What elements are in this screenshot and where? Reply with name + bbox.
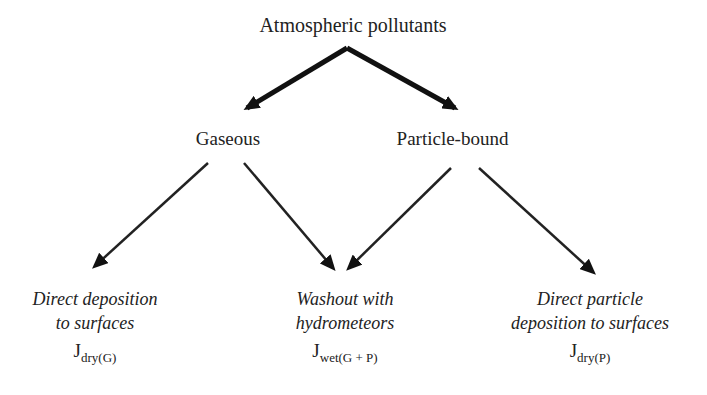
edge-root-to-particle-bound — [347, 48, 455, 108]
flux-symbol: Jdry(G) — [20, 339, 170, 370]
leaf-line1: Direct deposition — [20, 287, 170, 311]
flux-symbol: Jdry(P) — [485, 339, 695, 370]
root-node-atmospheric-pollutants: Atmospheric pollutants — [233, 14, 473, 37]
leaf-line2: to surfaces — [20, 311, 170, 335]
leaf-node-dry-deposition-particle: Direct particle deposition to surfaces J… — [485, 287, 695, 370]
leaf-line1: Direct particle — [485, 287, 695, 311]
flux-subscript: dry(P) — [577, 350, 610, 365]
root-label: Atmospheric pollutants — [259, 14, 446, 36]
edge-particle-to-particle-deposition — [479, 168, 593, 272]
edge-gaseous-to-washout — [244, 163, 333, 268]
leaf-line2: hydrometeors — [265, 311, 425, 335]
leaf-line1: Washout with — [265, 287, 425, 311]
branch-node-particle-bound: Particle-bound — [375, 128, 530, 150]
flux-subscript: wet(G + P) — [320, 350, 378, 365]
branch-label: Particle-bound — [397, 128, 509, 149]
flux-symbol: Jwet(G + P) — [265, 339, 425, 370]
edge-root-to-gaseous — [247, 48, 347, 108]
leaf-node-washout: Washout with hydrometeors Jwet(G + P) — [265, 287, 425, 370]
leaf-node-dry-deposition-gaseous: Direct deposition to surfaces Jdry(G) — [20, 287, 170, 370]
leaf-line2: deposition to surfaces — [485, 311, 695, 335]
branch-label: Gaseous — [196, 128, 260, 149]
edge-particle-to-washout — [349, 168, 451, 268]
branch-node-gaseous: Gaseous — [168, 128, 288, 150]
flux-subscript: dry(G) — [81, 350, 116, 365]
edge-gaseous-to-dry-deposition — [95, 163, 208, 266]
